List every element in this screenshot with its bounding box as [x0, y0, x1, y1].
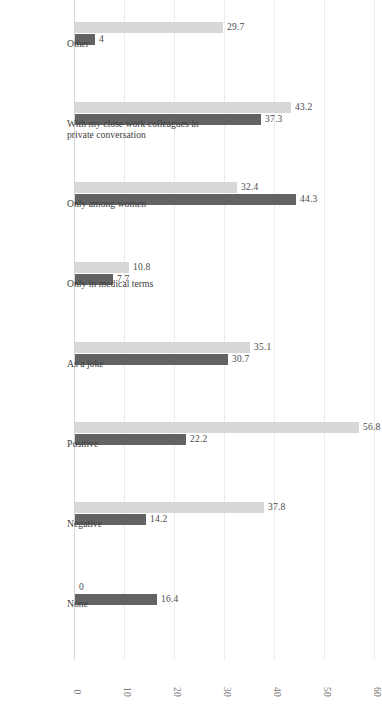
bar-0[interactable]	[75, 422, 359, 433]
category-label-line: Positive	[67, 438, 98, 449]
bar-group: 56.822.2	[75, 422, 375, 445]
category-label-line: With my close work colleagues in	[67, 118, 199, 129]
bar-0[interactable]	[75, 22, 224, 33]
y-axis-tick-0: 0	[72, 679, 82, 705]
category-label: Only among women	[67, 198, 146, 209]
data-label: 44.3	[301, 194, 318, 204]
axis-baseline	[74, 0, 75, 660]
category-label-line: As a joke	[67, 358, 104, 369]
y-axis-tick-60: 60	[372, 679, 382, 705]
data-label: 43.2	[295, 102, 312, 112]
data-label: 16.4	[161, 594, 178, 604]
category-label-line: Only among women	[67, 198, 146, 209]
bar-0[interactable]	[75, 502, 264, 513]
category-label: Other	[67, 38, 89, 49]
data-label: 29.7	[228, 22, 245, 32]
gridline	[224, 0, 225, 660]
gridline	[174, 0, 175, 660]
gridline	[274, 0, 275, 660]
data-label: 10.8	[133, 262, 150, 272]
category-label-line: Other	[67, 38, 89, 49]
gridline	[324, 0, 325, 660]
bar-group: 29.74	[75, 22, 375, 45]
data-label: 4	[99, 34, 104, 44]
data-label: 14.2	[150, 514, 167, 524]
data-label: 56.8	[363, 422, 380, 432]
category-label: Negative	[67, 518, 102, 529]
gridline	[124, 0, 125, 660]
bar-group: 37.814.2	[75, 502, 375, 525]
data-label: 30.7	[233, 354, 250, 364]
data-label: 37.8	[268, 502, 285, 512]
bar-0[interactable]	[75, 182, 237, 193]
data-label: 32.4	[241, 182, 258, 192]
bar-group: 016.4	[75, 582, 375, 605]
category-label-line: None	[67, 598, 88, 609]
category-label-line: Negative	[67, 518, 102, 529]
category-label: Positive	[67, 438, 98, 449]
data-label: 35.1	[255, 342, 272, 352]
category-label-line: Only in medical terms	[67, 278, 153, 289]
category-label: None	[67, 598, 88, 609]
bar-0[interactable]	[75, 342, 251, 353]
y-axis-tick-40: 40	[272, 679, 282, 705]
bar-0[interactable]	[75, 102, 291, 113]
category-label: With my close work colleagues inprivate …	[67, 118, 199, 140]
y-axis-tick-50: 50	[322, 679, 332, 705]
data-label: 0	[79, 582, 84, 592]
category-label-line: private conversation	[67, 129, 199, 140]
category-label: Only in medical terms	[67, 278, 153, 289]
gridline	[374, 0, 375, 660]
y-axis-tick-30: 30	[222, 679, 232, 705]
bar-group: 35.130.7	[75, 342, 375, 365]
y-axis-tick-20: 20	[172, 679, 182, 705]
category-label: As a joke	[67, 358, 104, 369]
data-label: 37.3	[266, 114, 283, 124]
data-label: 22.2	[190, 434, 207, 444]
bar-0[interactable]	[75, 262, 129, 273]
y-axis-tick-10: 10	[122, 679, 132, 705]
